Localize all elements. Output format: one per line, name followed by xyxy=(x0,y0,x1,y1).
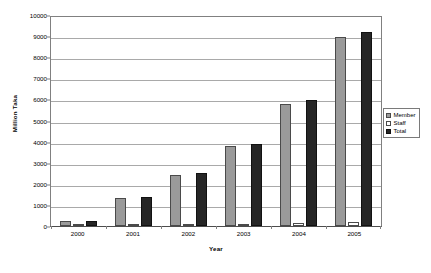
bar-group xyxy=(271,17,326,226)
bar-group xyxy=(161,17,216,226)
bar-member-2003 xyxy=(225,146,236,226)
x-axis-tick-mark xyxy=(161,226,162,229)
y-axis-tick-label: 0 xyxy=(16,224,47,230)
legend-label: Member xyxy=(394,112,416,118)
y-axis-tick-label: 10000 xyxy=(16,13,47,19)
bar-group xyxy=(106,17,161,226)
x-axis-tick-label: 2005 xyxy=(327,230,382,237)
y-axis-tick-labels: 1000090008000700060005000400030002000100… xyxy=(16,16,47,227)
legend-label: Staff xyxy=(394,120,406,126)
bar-member-2000 xyxy=(60,221,71,226)
x-axis-title: Year xyxy=(50,245,382,252)
legend-item-staff: Staff xyxy=(386,119,416,127)
bar-total-2000 xyxy=(86,221,97,226)
y-axis-tick-label: 5000 xyxy=(16,118,47,124)
bar-total-2002 xyxy=(196,173,207,226)
y-axis-tick-label: 6000 xyxy=(16,97,47,103)
legend-item-member: Member xyxy=(386,111,416,119)
legend-swatch-staff-icon xyxy=(386,121,391,126)
bar-staff-2002 xyxy=(183,224,194,226)
bar-member-2002 xyxy=(170,175,181,226)
bar-group xyxy=(326,17,381,226)
x-axis-tick-mark xyxy=(106,226,107,229)
x-axis-tick-labels: 200020012002200320042005 xyxy=(50,230,382,237)
x-axis-tick-mark xyxy=(271,226,272,229)
y-axis-tick-label: 4000 xyxy=(16,139,47,145)
bar-total-2005 xyxy=(361,32,372,226)
y-axis-tick-label: 7000 xyxy=(16,76,47,82)
x-axis-tick-label: 2004 xyxy=(271,230,326,237)
y-axis-tick-label: 8000 xyxy=(16,55,47,61)
legend-swatch-member-icon xyxy=(386,113,391,118)
bar-staff-2004 xyxy=(293,223,304,226)
bar-member-2004 xyxy=(280,104,291,226)
bar-staff-2005 xyxy=(348,222,359,226)
bar-staff-2003 xyxy=(238,224,249,226)
bar-groups xyxy=(51,17,381,226)
legend-item-total: Total xyxy=(386,127,416,135)
y-axis-tick-label: 2000 xyxy=(16,182,47,188)
x-axis-tick-label: 2001 xyxy=(105,230,160,237)
y-axis-tick-label: 9000 xyxy=(16,34,47,40)
bar-member-2005 xyxy=(335,37,346,226)
x-axis-tick-mark xyxy=(326,226,327,229)
legend-swatch-total-icon xyxy=(386,129,391,134)
plot-area xyxy=(50,16,382,227)
y-axis-tick-label: 1000 xyxy=(16,203,47,209)
bar-total-2004 xyxy=(306,100,317,226)
bar-group xyxy=(216,17,271,226)
x-axis-tick-mark xyxy=(216,226,217,229)
bar-staff-2001 xyxy=(128,224,139,226)
legend-label: Total xyxy=(394,128,407,134)
x-axis-tick-mark xyxy=(380,226,381,229)
bar-total-2001 xyxy=(141,197,152,226)
bar-group xyxy=(51,17,106,226)
bar-member-2001 xyxy=(115,198,126,226)
x-axis-tick-label: 2000 xyxy=(50,230,105,237)
x-axis-tick-label: 2003 xyxy=(216,230,271,237)
legend: MemberStaffTotal xyxy=(383,108,420,138)
y-axis-tick-label: 3000 xyxy=(16,161,47,167)
bar-chart: Million Taka 100009000800070006000500040… xyxy=(0,0,431,273)
x-axis-tick-label: 2002 xyxy=(161,230,216,237)
x-axis-tick-mark xyxy=(51,226,52,229)
bar-staff-2000 xyxy=(73,224,84,226)
bar-total-2003 xyxy=(251,144,262,226)
